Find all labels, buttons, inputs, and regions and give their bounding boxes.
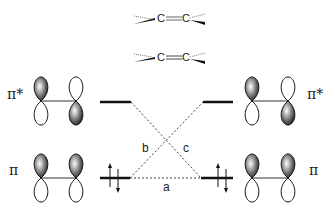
planar-ethylene-structure: C C [134,51,205,64]
svg-text:C: C [157,51,165,63]
left-pi-orbital [34,154,83,202]
right-pi-star-orbital [245,77,295,125]
svg-text:C: C [157,12,165,24]
pi-star-right-label: π* [307,86,323,102]
pi-star-left-label: π* [7,86,23,102]
left-pi-star-orbital [34,77,83,125]
svg-text:C: C [182,12,190,24]
pi-right-label: π [309,162,318,178]
twisted-ethylene-structure: C C [134,12,205,25]
right-pi-orbital [245,154,295,202]
interaction-b-label: b [142,141,149,155]
svg-text:C: C [182,51,190,63]
pi-left-label: π [9,162,18,178]
interaction-a-label: a [163,180,170,194]
interaction-c-label: c [183,141,189,155]
